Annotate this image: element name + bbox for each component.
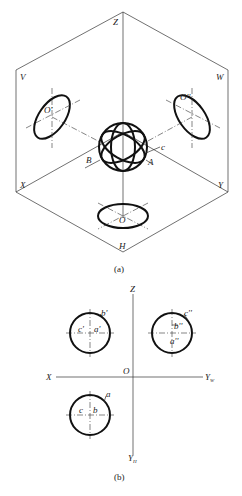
b-axis-yh-label: YH xyxy=(128,453,137,464)
side-b-label: b'' xyxy=(174,321,183,331)
axis-x-label: X xyxy=(19,180,26,190)
b-axis-yw-label: YW xyxy=(205,372,215,383)
caption-a: (a) xyxy=(114,264,124,274)
point-a-label: A xyxy=(147,157,154,167)
caption-b: (b) xyxy=(114,472,125,482)
plane-w-label: W xyxy=(216,72,225,82)
center-o-double-prime-label: O'' xyxy=(180,92,191,102)
sphere-projection-diagram: Z V W X Y H O' O'' O B A c (a) Z X O YW … xyxy=(0,0,242,496)
plane-v-label: V xyxy=(20,72,27,82)
top-c-label: c xyxy=(79,405,83,415)
front-a-label: a' xyxy=(94,324,102,334)
side-a-label: a'' xyxy=(170,336,179,346)
front-b-label: b' xyxy=(101,308,109,318)
b-axis-z-label: Z xyxy=(130,284,136,294)
b-axis-x-label: X xyxy=(45,372,52,382)
top-b-label: b xyxy=(93,405,98,415)
center-o-prime-label: O' xyxy=(44,105,53,115)
point-c-label: c xyxy=(161,142,165,152)
front-c-label: c' xyxy=(78,324,85,334)
b-origin-label: O xyxy=(123,366,130,376)
plane-h-label: H xyxy=(118,241,126,251)
v-plane-projection xyxy=(26,88,100,148)
point-b-label: B xyxy=(86,155,92,165)
center-o-label: O xyxy=(119,215,126,225)
top-a-label: a xyxy=(106,389,111,399)
axis-z-label: Z xyxy=(113,17,119,27)
axis-y-label: Y xyxy=(218,180,224,190)
side-c-label: c'' xyxy=(184,308,193,318)
